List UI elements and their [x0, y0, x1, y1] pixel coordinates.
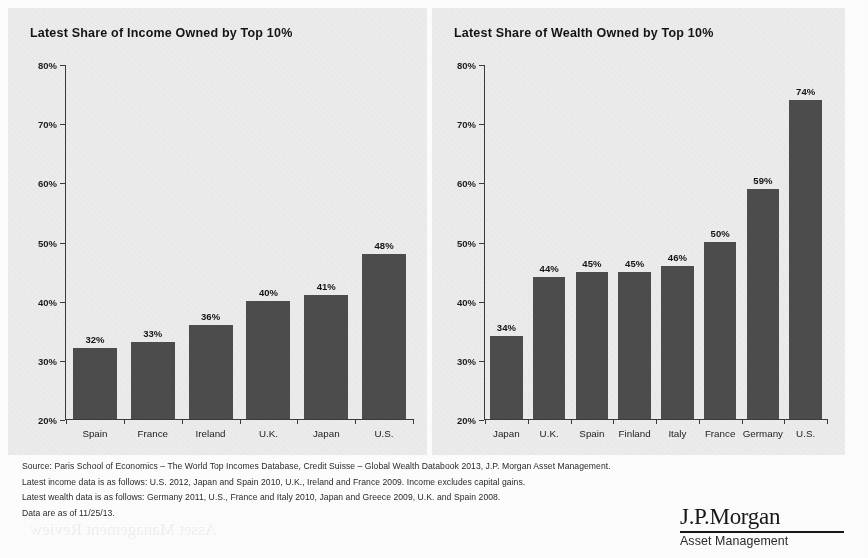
bar-value-label: 40% [240, 287, 298, 298]
bar-germany [747, 189, 779, 419]
y-axis-tick-label: 30% [457, 355, 476, 366]
plot-area-wealth: 34%Japan44%U.K.45%Spain45%Finland46%Ital… [484, 65, 827, 420]
bar-value-label: 36% [182, 311, 240, 322]
bar-u-k [246, 301, 290, 419]
x-axis-tick-mark [742, 419, 743, 424]
y-axis-tick-label: 80% [38, 60, 57, 71]
y-axis-tick-mark [60, 420, 65, 421]
y-axis-tick-mark [479, 302, 484, 303]
bar-finland [618, 272, 650, 420]
chart-title-income: Latest Share of Income Owned by Top 10% [30, 26, 292, 40]
bar-ireland [189, 325, 233, 419]
bar-slot: 44%U.K. [528, 65, 571, 419]
x-axis-category-label: U.S. [770, 428, 841, 439]
bar-value-label: 34% [485, 322, 528, 333]
bar-spain [576, 272, 608, 420]
bar-value-label: 44% [528, 263, 571, 274]
bar-slot: 46%Italy [656, 65, 699, 419]
y-axis-tick-label: 50% [457, 237, 476, 248]
y-axis-tick-mark [60, 302, 65, 303]
y-axis-tick-label: 80% [457, 60, 476, 71]
y-axis-tick-mark [479, 420, 484, 421]
bar-u-s [789, 100, 821, 419]
y-axis-tick-label: 70% [38, 119, 57, 130]
y-axis-tick-mark [479, 243, 484, 244]
bar-japan [304, 295, 348, 419]
bar-slot: 40%U.K. [240, 65, 298, 419]
bar-italy [661, 266, 693, 419]
x-axis-category-label: U.S. [341, 428, 427, 439]
chart-panel-income: Latest Share of Income Owned by Top 10% … [8, 8, 427, 455]
x-axis-tick-mark [571, 419, 572, 424]
chart-title-wealth: Latest Share of Wealth Owned by Top 10% [454, 26, 713, 40]
y-axis-tick-label: 70% [457, 119, 476, 130]
bar-u-k [533, 277, 565, 419]
y-axis-tick-label: 50% [38, 237, 57, 248]
bar-u-s [362, 254, 406, 419]
y-axis-tick-label: 20% [38, 415, 57, 426]
footnote-source: Source: Paris School of Economics – The … [22, 459, 842, 475]
bar-slot: 41%Japan [297, 65, 355, 419]
y-axis-tick-label: 60% [38, 178, 57, 189]
footnote-income-data: Latest income data is as follows: U.S. 2… [22, 475, 842, 491]
bar-value-label: 59% [742, 175, 785, 186]
bar-france [704, 242, 736, 419]
x-axis-tick-mark [656, 419, 657, 424]
bar-slot: 59%Germany [742, 65, 785, 419]
x-axis-tick-mark [413, 419, 414, 424]
x-axis-tick-mark [699, 419, 700, 424]
logo-brand-text: J.P.Morgan [678, 505, 846, 529]
x-axis-tick-mark [66, 419, 67, 424]
jpmorgan-logo: J.P.Morgan Asset Management [678, 505, 846, 548]
bar-slot: 34%Japan [485, 65, 528, 419]
bar-value-label: 33% [124, 328, 182, 339]
bar-value-label: 48% [355, 240, 413, 251]
y-axis-tick-mark [479, 124, 484, 125]
y-axis-tick-mark [479, 65, 484, 66]
bar-slot: 50%France [699, 65, 742, 419]
bar-slot: 74%U.S. [784, 65, 827, 419]
bar-value-label: 50% [699, 228, 742, 239]
logo-rule [680, 531, 844, 533]
x-axis-tick-mark [124, 419, 125, 424]
x-axis-tick-mark [784, 419, 785, 424]
bar-group-wealth: 34%Japan44%U.K.45%Spain45%Finland46%Ital… [485, 65, 827, 419]
bar-france [131, 342, 175, 419]
y-axis-tick-label: 60% [457, 178, 476, 189]
x-axis-tick-mark [485, 419, 486, 424]
y-axis-tick-mark [60, 65, 65, 66]
bar-slot: 36%Ireland [182, 65, 240, 419]
x-axis-tick-mark [528, 419, 529, 424]
chart-panel-wealth: Latest Share of Wealth Owned by Top 10% … [432, 8, 845, 455]
x-axis-tick-mark [613, 419, 614, 424]
y-axis-tick-mark [479, 361, 484, 362]
scanned-page: Latest Share of Income Owned by Top 10% … [0, 0, 868, 558]
plot-area-income: 32%Spain33%France36%Ireland40%U.K.41%Jap… [65, 65, 413, 420]
y-axis-tick-label: 40% [457, 296, 476, 307]
bar-value-label: 45% [571, 258, 614, 269]
bar-value-label: 32% [66, 334, 124, 345]
y-axis-tick-label: 40% [38, 296, 57, 307]
bar-slot: 33%France [124, 65, 182, 419]
bar-slot: 45%Spain [571, 65, 614, 419]
bar-value-label: 45% [613, 258, 656, 269]
bar-value-label: 74% [784, 86, 827, 97]
x-axis-tick-mark [182, 419, 183, 424]
x-axis-tick-mark [827, 419, 828, 424]
bar-group-income: 32%Spain33%France36%Ireland40%U.K.41%Jap… [66, 65, 413, 419]
y-axis-tick-mark [60, 183, 65, 184]
x-axis-tick-mark [355, 419, 356, 424]
y-axis-tick-mark [60, 361, 65, 362]
bleed-through-artifact: Asset Management Review [30, 520, 217, 540]
bar-slot: 48%U.S. [355, 65, 413, 419]
y-axis-tick-label: 30% [38, 355, 57, 366]
bar-japan [490, 336, 522, 419]
bar-slot: 45%Finland [613, 65, 656, 419]
y-axis-tick-mark [479, 183, 484, 184]
y-axis-tick-mark [60, 243, 65, 244]
x-axis-tick-mark [297, 419, 298, 424]
bar-value-label: 46% [656, 252, 699, 263]
bar-value-label: 41% [297, 281, 355, 292]
y-axis-tick-label: 20% [457, 415, 476, 426]
bar-spain [73, 348, 117, 419]
